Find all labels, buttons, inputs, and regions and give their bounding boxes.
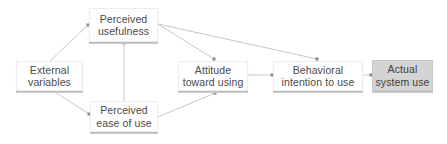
node-behavioral-intention: Behavioral intention to use [273,61,363,91]
node-attitude-toward-using: Attitude toward using [178,61,248,91]
edge-external-to-usefulness [50,25,88,61]
node-external-variables: External variables [16,61,83,91]
node-actual-system-use: Actual system use [372,60,433,91]
node-label-line1: Perceived [98,13,149,26]
node-label-line2: intention to use [282,76,355,89]
node-label-line1: Actual [375,63,429,76]
node-label-line1: External [28,64,71,77]
edge-usefulness-to-intention [158,24,317,59]
node-label-line2: toward using [183,76,244,89]
node-label-line1: Attitude [183,64,244,77]
node-label-line1: Perceived [96,104,151,117]
node-perceived-usefulness: Perceived usefulness [89,8,158,42]
node-label-line2: usefulness [98,25,149,38]
diagram-canvas: External variables Perceived usefulness … [0,0,447,144]
edge-external-to-ease [55,92,89,114]
node-label-line1: Behavioral [282,64,355,77]
node-perceived-ease-of-use: Perceived ease of use [90,101,158,132]
edge-usefulness-to-attitude [158,24,214,59]
node-label-line2: system use [375,76,429,89]
node-label-line2: variables [28,76,71,89]
edge-ease-to-attitude [158,93,215,117]
node-label-line2: ease of use [96,117,151,130]
